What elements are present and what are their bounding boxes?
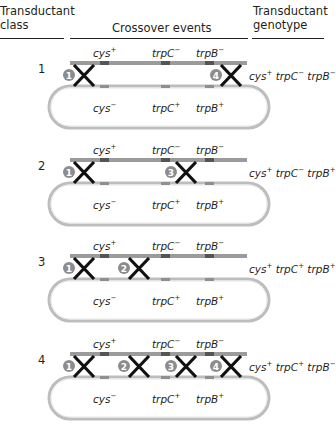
svg-text:3: 3 — [168, 362, 174, 372]
transductant-genotype: cys+ trpC+ trpB+ — [249, 262, 336, 275]
header-genotype-line1: Transductant — [253, 4, 328, 18]
crossover-1: 1 — [63, 258, 94, 279]
recipient-gene-marker — [161, 278, 170, 281]
svg-text:2: 2 — [121, 362, 127, 372]
transductant-row-3: 3cys+trpC−trpB−cys−trpC+trpB+12cys+ trpC… — [0, 237, 324, 333]
transductant-row-2: 2cys+trpC−trpB−cys−trpC+trpB+13cys+ trpC… — [0, 141, 324, 237]
crossover-2: 2 — [118, 258, 149, 279]
header-class-line1: Transductant — [0, 4, 75, 18]
transductant-row-1: 1cys+trpC−trpB−cys−trpC+trpB+14cys+ trpC… — [0, 44, 324, 140]
svg-text:1: 1 — [66, 362, 72, 372]
recipient-gene-marker — [205, 278, 214, 281]
donor-gene-marker — [205, 254, 214, 258]
recipient-chromosome — [49, 183, 269, 225]
donor-gene-marker — [205, 352, 214, 356]
crossover-1: 1 — [63, 65, 94, 86]
svg-text:1: 1 — [66, 168, 72, 178]
header-rule-events — [70, 38, 248, 39]
donor-fragment — [70, 352, 247, 356]
header-class-title: Transductant class — [0, 4, 75, 32]
recipient-chromosome — [49, 279, 269, 321]
crossover-diagram: 1234 — [0, 335, 324, 425]
transductant-genotype: cys+ trpC− trpB− — [249, 69, 336, 82]
recipient-gene-marker — [161, 85, 170, 88]
recipient-chromosome — [49, 86, 269, 128]
recipient-gene-marker — [100, 85, 109, 88]
svg-text:4: 4 — [213, 362, 219, 372]
header-class-line2: class — [0, 18, 75, 32]
donor-fragment — [70, 61, 247, 65]
crossover-diagram: 12 — [0, 237, 324, 333]
crossover-1: 1 — [63, 162, 94, 183]
svg-text:1: 1 — [66, 264, 72, 274]
recipient-gene-marker — [205, 182, 214, 185]
crossover-diagram: 13 — [0, 141, 324, 237]
donor-fragment — [70, 254, 247, 258]
header-events-title: Crossover events — [112, 21, 212, 35]
crossover-4: 4 — [210, 356, 241, 377]
recipient-gene-marker — [100, 376, 109, 379]
header-rule-genotype — [252, 38, 324, 39]
donor-gene-marker — [205, 61, 214, 65]
recipient-gene-marker — [100, 278, 109, 281]
crossover-diagram: 14 — [0, 44, 324, 140]
transductant-genotype: cys+ trpC+ trpB− — [249, 360, 336, 373]
crossover-3: 3 — [165, 162, 196, 183]
recipient-gene-marker — [100, 182, 109, 185]
donor-gene-marker — [161, 254, 170, 258]
donor-gene-marker — [100, 158, 109, 162]
recipient-gene-marker — [161, 376, 170, 379]
crossover-2: 2 — [118, 356, 149, 377]
transductant-genotype: cys+ trpC− trpB+ — [249, 166, 336, 179]
donor-fragment — [70, 158, 247, 162]
header-rule-class — [0, 38, 64, 39]
svg-text:2: 2 — [121, 264, 127, 274]
donor-gene-marker — [161, 61, 170, 65]
donor-gene-marker — [100, 61, 109, 65]
svg-text:3: 3 — [168, 168, 174, 178]
header-genotype-line2: genotype — [253, 18, 328, 32]
svg-text:1: 1 — [66, 71, 72, 81]
crossover-4: 4 — [210, 65, 241, 86]
recipient-gene-marker — [205, 376, 214, 379]
recipient-chromosome — [49, 377, 269, 419]
donor-gene-marker — [100, 254, 109, 258]
donor-gene-marker — [161, 158, 170, 162]
svg-text:4: 4 — [213, 71, 219, 81]
recipient-gene-marker — [205, 85, 214, 88]
header-genotype-title: Transductant genotype — [253, 4, 328, 32]
crossover-1: 1 — [63, 356, 94, 377]
recipient-gene-marker — [161, 182, 170, 185]
donor-gene-marker — [205, 158, 214, 162]
donor-gene-marker — [100, 352, 109, 356]
donor-gene-marker — [161, 352, 170, 356]
transductant-row-4: 4cys+trpC−trpB−cys−trpC+trpB+1234cys+ tr… — [0, 335, 324, 425]
crossover-3: 3 — [165, 356, 196, 377]
